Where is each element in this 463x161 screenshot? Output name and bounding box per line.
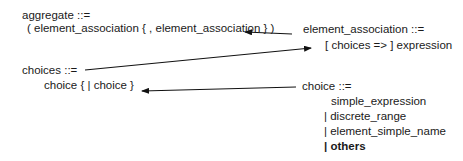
arrow-choice-to-choices (142, 87, 296, 91)
rule-choice-alt-discrete-range: | discrete_range (324, 109, 406, 123)
rule-choice-alt-others: | others (324, 139, 366, 153)
arrow-choices-to-element-association (85, 48, 311, 70)
rule-choices-head: choices ::= (22, 63, 77, 77)
rule-choices-body: choice { | choice } (44, 78, 134, 92)
rule-choice-alt-element-simple-name: | element_simple_name (324, 124, 446, 138)
rule-aggregate-head: aggregate ::= (22, 8, 90, 22)
rule-element-association-body: [ choices => ] expression (325, 38, 452, 52)
rule-choice-alt-simple-expression: simple_expression (331, 94, 426, 108)
grammar-diagram: aggregate ::= ( element_association { , … (0, 0, 463, 161)
rule-choice-head: choice ::= (302, 79, 352, 93)
rule-aggregate-body: ( element_association { , element_associ… (27, 21, 274, 35)
rule-element-association-head: element_association ::= (303, 22, 424, 36)
